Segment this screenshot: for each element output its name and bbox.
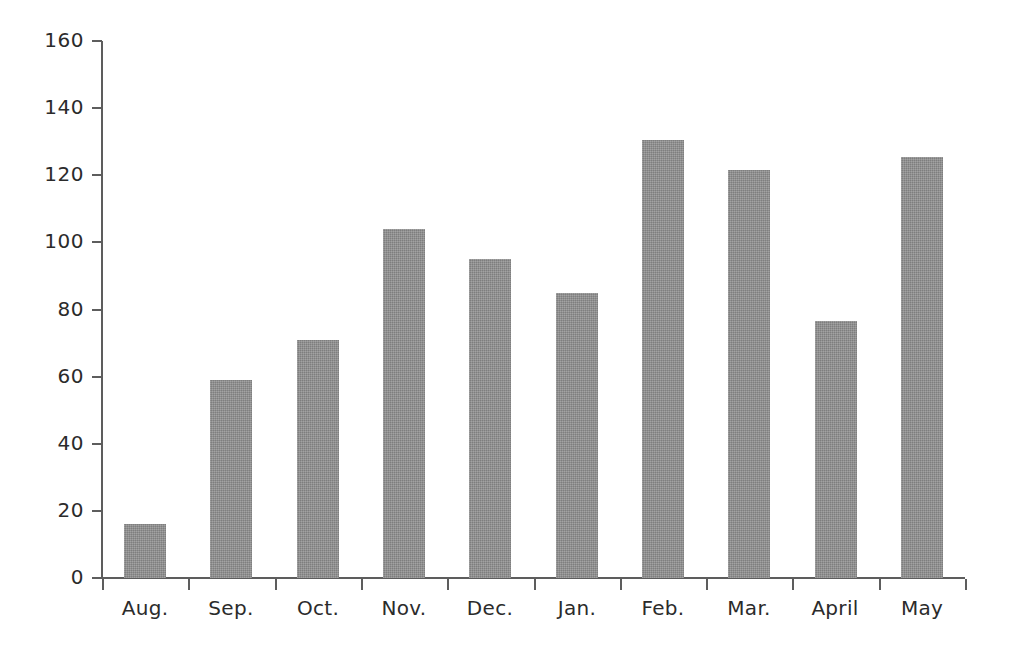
- bar: [642, 140, 684, 578]
- x-axis-tick: [879, 579, 881, 590]
- bar: [901, 157, 943, 578]
- bar: [815, 321, 857, 578]
- x-axis-tick: [447, 579, 449, 590]
- bar: [728, 170, 770, 578]
- y-axis-tick-label: 20: [10, 498, 84, 522]
- x-axis-label: April: [792, 596, 878, 620]
- bar: [383, 229, 425, 578]
- x-axis-tick: [965, 579, 967, 590]
- y-axis-tick: [92, 510, 102, 512]
- y-axis-tick-label: 80: [10, 297, 84, 321]
- bar: [556, 293, 598, 578]
- y-axis-tick-label: 120: [10, 162, 84, 186]
- bar: [297, 340, 339, 578]
- y-axis-tick: [92, 40, 102, 42]
- x-axis-tick: [792, 579, 794, 590]
- y-axis-tick: [92, 376, 102, 378]
- x-axis-label: May: [879, 596, 965, 620]
- y-axis-tick-label: 60: [10, 364, 84, 388]
- y-axis-tick: [92, 107, 102, 109]
- y-axis-tick-label: 40: [10, 431, 84, 455]
- x-axis-tick: [188, 579, 190, 590]
- x-axis-tick: [620, 579, 622, 590]
- bar: [469, 259, 511, 578]
- x-axis-tick: [706, 579, 708, 590]
- x-axis-label: Feb.: [620, 596, 706, 620]
- bar: [210, 380, 252, 578]
- y-axis-tick-label: 140: [10, 95, 84, 119]
- x-axis-tick: [275, 579, 277, 590]
- x-axis-label: Oct.: [275, 596, 361, 620]
- x-axis-tick: [534, 579, 536, 590]
- y-axis-tick: [92, 174, 102, 176]
- x-axis-label: Dec.: [447, 596, 533, 620]
- y-axis-tick-label: 0: [10, 565, 84, 589]
- x-axis-label: Sep.: [188, 596, 274, 620]
- y-axis-tick-label: 160: [10, 28, 84, 52]
- y-axis-tick: [92, 241, 102, 243]
- x-axis-tick: [102, 579, 104, 590]
- x-axis-label: Mar.: [706, 596, 792, 620]
- y-axis-tick: [92, 309, 102, 311]
- y-axis-tick: [92, 443, 102, 445]
- x-axis-label: Aug.: [102, 596, 188, 620]
- x-axis-label: Jan.: [534, 596, 620, 620]
- bar-chart: 020406080100120140160 Aug.Sep.Oct.Nov.De…: [0, 0, 1017, 651]
- x-axis-tick: [361, 579, 363, 590]
- x-axis-label: Nov.: [361, 596, 447, 620]
- y-axis-tick-label: 100: [10, 229, 84, 253]
- bar: [124, 524, 166, 578]
